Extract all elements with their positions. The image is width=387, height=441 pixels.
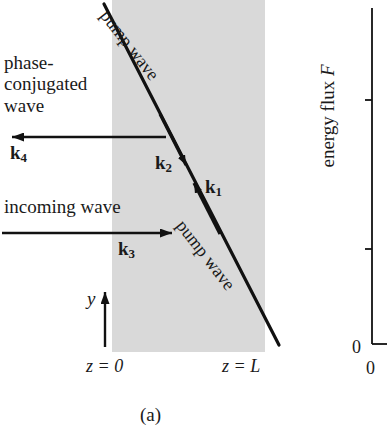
k1-vector-label: k1 xyxy=(205,176,222,200)
k3-vector-label: k3 xyxy=(118,238,135,262)
subfigure-caption: (a) xyxy=(140,404,161,426)
k1-symbol: k xyxy=(205,176,216,197)
right-plot-panel: energy flux F 0 0 xyxy=(300,0,387,441)
z-zero-label: z = 0 xyxy=(86,356,123,377)
k3-subscript: 3 xyxy=(129,246,135,261)
k4-symbol: k xyxy=(10,142,21,163)
y-axis-label: y xyxy=(87,288,95,310)
incoming-wave-label: incoming wave xyxy=(4,196,121,217)
right-panel-y-origin-label: 0 xyxy=(352,337,361,358)
phase-conjugated-wave-label: phase- conjugated wave xyxy=(4,52,87,116)
k4-vector-label: k4 xyxy=(10,142,27,166)
right-panel-x-origin-label: 0 xyxy=(366,358,375,379)
k2-vector-label: k2 xyxy=(155,152,172,176)
z-L-label: z = L xyxy=(222,356,260,377)
k1-subscript: 1 xyxy=(216,184,222,199)
energy-flux-axis-label: energy flux F xyxy=(317,36,339,196)
energy-flux-axis-symbol: F xyxy=(317,64,338,76)
k3-symbol: k xyxy=(118,238,129,259)
k2-subscript: 2 xyxy=(166,160,172,175)
k4-subscript: 4 xyxy=(21,150,27,165)
k2-symbol: k xyxy=(155,152,166,173)
four-wave-mixing-figure: phase- conjugated wave incoming wave k4 … xyxy=(0,0,387,441)
energy-flux-axis-text: energy flux xyxy=(317,76,338,167)
